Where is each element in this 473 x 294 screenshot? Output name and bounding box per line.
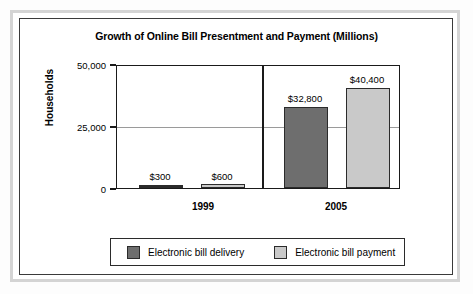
bar-value-label-2005-delivery: $32,800 <box>288 93 322 104</box>
legend-label-delivery: Electronic bill delivery <box>148 247 244 258</box>
legend-item-electronic-bill-payment[interactable]: Electronic bill payment <box>274 246 395 259</box>
chart-page: Growth of Online Bill Presentment and Pa… <box>0 0 473 294</box>
bar-2005-electronic-bill-delivery[interactable] <box>284 107 328 188</box>
y-axis-title: Households <box>44 43 55 153</box>
bar-value-label-1999-payment: $600 <box>211 171 232 182</box>
bar-2005-electronic-bill-payment[interactable] <box>346 88 390 188</box>
bar-value-label-1999-delivery: $300 <box>149 171 170 182</box>
y-tick-label-0: 0 <box>60 184 106 195</box>
legend-label-payment: Electronic bill payment <box>295 247 395 258</box>
y-tick-label-50000: 50,000 <box>60 60 106 71</box>
chart-title: Growth of Online Bill Presentment and Pa… <box>0 30 473 42</box>
group-divider <box>262 66 264 188</box>
x-category-label-2005: 2005 <box>325 201 347 212</box>
x-category-label-1999: 1999 <box>192 201 214 212</box>
bar-1999-electronic-bill-delivery[interactable] <box>139 185 183 188</box>
chart-legend: Electronic bill delivery Electronic bill… <box>110 238 405 266</box>
bar-value-label-2005-payment: $40,400 <box>350 74 384 85</box>
bar-1999-electronic-bill-payment[interactable] <box>201 184 245 188</box>
legend-swatch-icon-delivery <box>127 246 140 259</box>
legend-swatch-icon-payment <box>274 246 287 259</box>
legend-item-electronic-bill-delivery[interactable]: Electronic bill delivery <box>127 246 244 259</box>
y-tick-label-25000: 25,000 <box>60 122 106 133</box>
